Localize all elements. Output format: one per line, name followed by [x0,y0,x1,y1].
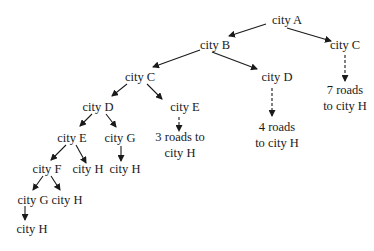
node-city-h-2: city H [110,162,141,176]
node-4-roads: 4 roads to city H [255,119,299,151]
node-city-d-left: city D [83,100,114,114]
node-city-h-3: city H [52,193,83,207]
node-3-roads: 3 roads to city H [155,129,204,161]
edge-a-b [229,24,266,36]
node-7-roads-line1: 7 roads [323,82,367,98]
edge-c-e [147,84,162,99]
node-city-a: city A [272,13,302,27]
node-city-c-right: city C [330,38,360,52]
edge-b-c [153,50,200,67]
edge-d-e [80,114,92,126]
edge-e-h [76,145,86,163]
edge-d-g [106,114,116,127]
edge-c-d [112,84,127,96]
node-4-roads-line1: 4 roads [255,119,299,135]
node-city-e-left: city E [57,131,87,145]
node-city-f: city F [33,162,62,176]
tree-edges [0,0,374,251]
edge-b-d [212,52,257,69]
node-city-d-right: city D [262,70,293,84]
node-3-roads-line2: city H [155,145,204,161]
node-city-g-low: city G [18,193,49,207]
node-3-roads-line1: 3 roads to [155,129,204,145]
node-7-roads: 7 roads to city H [323,82,367,114]
node-7-roads-line2: to city H [323,98,367,114]
node-city-h-1: city H [73,162,104,176]
node-city-h-4: city H [17,222,48,236]
node-city-c-left: city C [125,70,155,84]
edge-f-h [51,176,60,190]
node-city-b: city B [200,38,230,52]
edge-e-f [51,145,66,160]
node-city-e-right: city E [170,100,200,114]
node-4-roads-line2: to city H [255,135,299,151]
edge-a-c [287,28,331,41]
edge-f-g [33,176,43,190]
node-city-g-mid: city G [105,131,136,145]
